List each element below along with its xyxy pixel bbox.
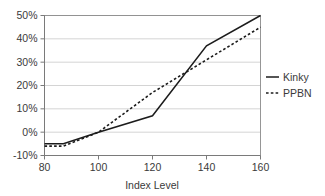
y-tick-label: 10%	[16, 102, 37, 114]
legend: KinkyPPBN	[266, 71, 312, 99]
y-tick-label: 40%	[16, 32, 37, 44]
y-tick-label: 30%	[16, 56, 37, 68]
series-line-ppbn	[45, 27, 261, 146]
x-axis-title: Index Level	[125, 179, 179, 191]
y-tick-label: -10%	[13, 149, 38, 161]
y-tick-label: 0%	[22, 126, 37, 138]
x-axis	[45, 156, 261, 160]
legend-label-ppbn: PPBN	[283, 87, 312, 99]
y-tick-labels: -10%0%10%20%30%40%50%	[13, 9, 38, 161]
x-tick-label: 120	[144, 161, 162, 173]
y-tick-label: 50%	[16, 9, 37, 21]
legend-label-kinky: Kinky	[283, 71, 309, 83]
x-tick-label: 160	[252, 161, 270, 173]
y-tick-label: 20%	[16, 79, 37, 91]
x-tick-label: 80	[39, 161, 51, 173]
series-line-kinky	[45, 16, 261, 144]
data-series	[45, 16, 261, 147]
y-axis	[41, 16, 45, 156]
chart-canvas: -10%0%10%20%30%40%50% 80100120140160 Ind…	[0, 0, 325, 196]
x-tick-labels: 80100120140160	[39, 161, 270, 173]
x-tick-label: 100	[90, 161, 108, 173]
x-tick-label: 140	[198, 161, 216, 173]
line-chart: -10%0%10%20%30%40%50% 80100120140160 Ind…	[0, 0, 325, 196]
